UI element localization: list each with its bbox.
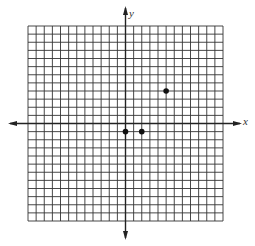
x-axis-label: x <box>243 115 248 127</box>
coordinate-plane <box>0 0 255 246</box>
y-axis-label: y <box>129 7 134 19</box>
x-axis-right-arrow-icon <box>233 121 242 126</box>
data-point <box>163 88 169 94</box>
x-axis-left-arrow-icon <box>8 121 17 126</box>
data-point <box>139 129 145 135</box>
y-axis-up-arrow-icon <box>123 6 128 15</box>
y-axis-down-arrow-icon <box>123 231 128 240</box>
data-point <box>123 129 129 135</box>
